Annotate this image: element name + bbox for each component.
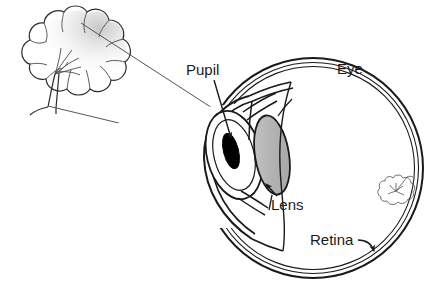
lens-label: Lens (271, 196, 304, 213)
eye-diagram: Pupil Lens Eye Retina (0, 0, 434, 294)
eye-label: Eye (337, 60, 363, 77)
eye-label-group: Eye (337, 60, 363, 77)
eye-diagram-canvas: Pupil Lens Eye Retina (0, 0, 434, 294)
pupil-label: Pupil (186, 61, 219, 78)
retina-label: Retina (310, 231, 354, 248)
tree-object (22, 6, 131, 115)
tree-canopy-shading (26, 10, 127, 90)
tree-roots (30, 107, 56, 115)
